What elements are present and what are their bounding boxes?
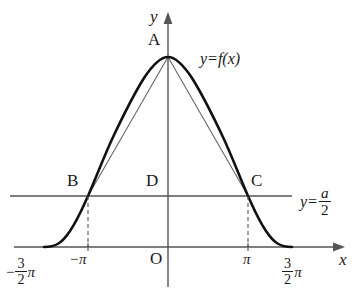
tick-label-neg-three-halves-pi: − 3 2 π (6, 257, 35, 287)
x-axis-label: x (339, 251, 347, 268)
tick-numerator-left: 3 (15, 256, 26, 272)
math-figure: y x O A B D C y=f(x) y= a 2 − 3 2 π −π π… (0, 0, 358, 294)
tick-pi-symbol-left: π (28, 265, 36, 280)
y-axis-arrowhead (164, 12, 173, 24)
tick-numerator-right: 3 (282, 256, 293, 272)
chord-a-to-c (168, 57, 248, 196)
tick-pi-symbol-right: π (294, 265, 302, 280)
point-label-c: C (251, 172, 262, 189)
origin-label: O (150, 250, 162, 267)
tick-label-pi: π (243, 252, 251, 267)
curve-equation-label: y=f(x) (200, 51, 240, 67)
tick-fraction-left: 3 2 (15, 256, 26, 286)
line-equation-denominator: 2 (319, 202, 331, 218)
tick-denominator-left: 2 (15, 272, 26, 287)
tick-label-three-halves-pi: 3 2 π (281, 257, 302, 287)
line-equation-label: y= a 2 (300, 186, 332, 218)
x-axis (14, 243, 345, 252)
line-equation-lhs: y= (300, 194, 318, 210)
line-equation-fraction: a 2 (319, 185, 331, 217)
y-axis-label: y (150, 8, 158, 25)
tick-neg-sign: − (6, 265, 14, 280)
point-label-b: B (67, 172, 78, 189)
line-equation-numerator: a (319, 185, 331, 202)
tick-denominator-right: 2 (282, 272, 293, 287)
tick-fraction-right: 3 2 (282, 256, 293, 286)
tick-label-neg-pi: −π (69, 252, 87, 267)
figure-canvas (0, 0, 358, 294)
y-axis (164, 12, 173, 287)
point-label-a: A (148, 31, 160, 48)
point-label-d: D (146, 172, 158, 189)
